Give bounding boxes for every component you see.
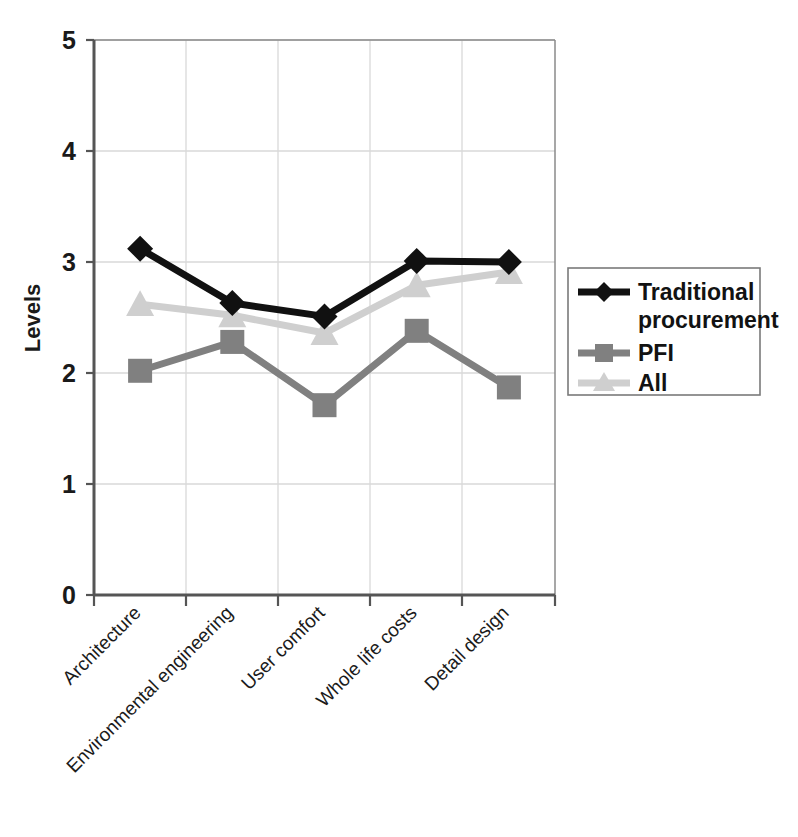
y-tick-label-1: 1	[62, 470, 76, 498]
line-chart: 5 4 3 2 1 0 Levels Architecture Environm…	[0, 0, 798, 837]
chart-canvas: 5 4 3 2 1 0 Levels Architecture Environm…	[0, 0, 798, 837]
y-tick-label-2: 2	[62, 359, 76, 387]
square-icon	[595, 344, 613, 362]
y-tick-label-4: 4	[62, 137, 76, 165]
y-axis-title: Levels	[20, 284, 45, 353]
x-tick-label-whole-life-costs: Whole life costs	[312, 602, 421, 711]
y-tick-label-0: 0	[62, 581, 76, 609]
legend: Traditional procurement PFI All	[568, 268, 779, 396]
legend-label-pfi: PFI	[638, 340, 674, 366]
square-marker	[128, 359, 152, 383]
x-tick-label-detail-design: Detail design	[420, 602, 513, 695]
x-tick-label-architecture: Architecture	[58, 602, 145, 689]
square-marker	[405, 319, 429, 343]
square-marker	[313, 393, 337, 417]
legend-label-traditional-procurement-line1: Traditional	[638, 279, 754, 305]
legend-label-traditional-procurement-line2: procurement	[638, 307, 779, 333]
square-marker	[497, 375, 521, 399]
x-axis-ticks	[94, 595, 555, 606]
x-tick-label-environmental-engineering: Environmental engineering	[62, 602, 237, 777]
y-tick-label-5: 5	[62, 26, 76, 54]
y-tick-label-3: 3	[62, 248, 76, 276]
x-tick-label-user-comfort: User comfort	[237, 601, 329, 693]
legend-label-all: All	[638, 370, 667, 396]
square-marker	[220, 330, 244, 354]
